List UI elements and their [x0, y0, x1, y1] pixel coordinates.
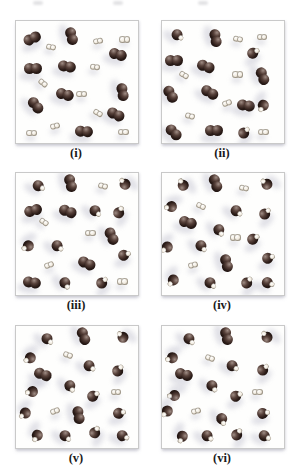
- light-atom: [115, 389, 122, 396]
- light-cap-atom: [201, 246, 208, 253]
- light-cap-atom: [96, 210, 103, 217]
- dark-atom: [210, 35, 223, 48]
- snapshot-panel-ii: [161, 20, 285, 144]
- panel-cell-ii: (ii): [161, 20, 285, 161]
- dark-atom: [257, 72, 271, 86]
- cropped-text-remnant: [33, 1, 43, 5]
- light-atom: [261, 34, 268, 41]
- panel-canvas-i: [16, 21, 138, 143]
- light-atom: [31, 130, 38, 137]
- dark-atom: [82, 125, 94, 137]
- panel-canvas-ii: [162, 21, 284, 143]
- light-cap-atom: [58, 245, 65, 252]
- dark-atom: [172, 55, 183, 66]
- light-atom: [234, 234, 241, 241]
- panel-canvas-v: [16, 326, 138, 448]
- light-atom: [121, 278, 128, 285]
- light-cap-atom: [265, 409, 271, 415]
- panel-canvas-iii: [16, 173, 138, 295]
- light-cap-atom: [121, 408, 127, 414]
- light-cap-atom: [47, 339, 54, 346]
- light-atom: [124, 36, 131, 43]
- light-atom: [50, 43, 58, 51]
- snapshot-panel-iii: [15, 172, 139, 296]
- panel-cell-i: (i): [15, 20, 139, 161]
- light-cap-atom: [266, 434, 273, 441]
- panel-label-i: (i): [15, 145, 137, 161]
- light-atom: [81, 91, 88, 98]
- dark-atom: [78, 332, 92, 346]
- dark-atom: [31, 63, 42, 74]
- panel-label-ii: (ii): [161, 145, 283, 161]
- panel-canvas-iv: [162, 173, 284, 295]
- cropped-text-remnant: [198, 1, 208, 5]
- dark-atom: [212, 125, 223, 136]
- light-cap-atom: [189, 339, 196, 346]
- panel-label-iii: (iii): [15, 297, 137, 313]
- dark-atom: [115, 48, 128, 61]
- panel-label-v: (v): [15, 450, 137, 466]
- light-atom: [262, 129, 269, 136]
- light-cap-atom: [125, 250, 131, 256]
- light-cap-atom: [269, 253, 275, 259]
- snapshot-panel-iv: [161, 172, 285, 296]
- dark-atom: [64, 60, 77, 73]
- light-cap-atom: [254, 233, 261, 240]
- panel-label-iv: (iv): [161, 297, 283, 313]
- snapshot-panel-i: [15, 20, 139, 144]
- dark-atom: [66, 32, 79, 45]
- dark-atom: [29, 276, 42, 289]
- light-cap-atom: [219, 230, 226, 237]
- light-atom: [122, 129, 129, 136]
- light-atom: [256, 389, 263, 396]
- panel-cell-v: (v): [15, 325, 139, 466]
- light-atom: [237, 71, 244, 78]
- light-cap-atom: [208, 435, 215, 442]
- light-atom: [96, 36, 104, 44]
- dark-atom: [74, 412, 87, 425]
- snapshot-panel-vi: [161, 325, 285, 449]
- light-atom: [242, 184, 250, 192]
- light-atom: [53, 121, 61, 129]
- cropped-text-remnant: [113, 1, 123, 5]
- light-atom: [94, 64, 101, 71]
- panel-label-vi: (vi): [161, 450, 283, 466]
- panel-canvas-vi: [162, 326, 284, 448]
- dark-atom: [118, 89, 131, 102]
- light-cap-atom: [237, 210, 244, 217]
- light-cap-atom: [124, 434, 131, 441]
- panel-cell-iv: (iv): [161, 172, 285, 313]
- snapshot-panel-v: [15, 325, 139, 449]
- dark-atom: [65, 179, 78, 192]
- light-cap-atom: [269, 280, 275, 286]
- figure-molecular-snapshots: (i) (ii) (iii) (iv) (v) (vi): [0, 0, 294, 471]
- dark-atom: [221, 332, 234, 345]
- panel-cell-iii: (iii): [15, 172, 139, 313]
- panel-cell-vi: (vi): [161, 325, 285, 466]
- light-atom: [89, 230, 96, 237]
